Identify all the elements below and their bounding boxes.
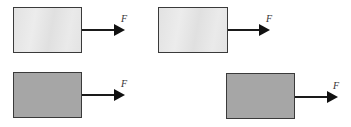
force-label-bottom-left: F	[121, 79, 127, 89]
light-block-top-right	[158, 7, 228, 53]
dark-block-bottom-right	[226, 73, 295, 119]
dark-block-bottom-left	[13, 72, 82, 118]
force-arrow-shaft-bottom-left	[82, 94, 115, 96]
force-arrow-head-icon	[114, 24, 125, 36]
force-arrow-shaft-bottom-right	[295, 96, 328, 98]
force-arrow-head-icon	[327, 91, 338, 103]
light-block-top-left	[13, 7, 82, 53]
force-arrow-shaft-top-left	[82, 29, 115, 31]
force-arrow-head-icon	[259, 24, 270, 36]
force-label-bottom-right: F	[333, 81, 339, 91]
force-arrow-shaft-top-right	[228, 29, 260, 31]
force-label-top-left: F	[121, 14, 127, 24]
force-label-top-right: F	[266, 14, 272, 24]
force-arrow-head-icon	[114, 89, 125, 101]
